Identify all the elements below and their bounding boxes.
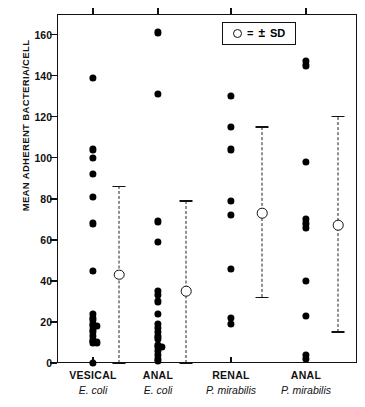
plot-area: 020406080100120140160 bbox=[57, 14, 357, 363]
legend: = ± SD bbox=[222, 22, 296, 45]
x-group-organism: P. mirabilis bbox=[206, 384, 256, 396]
mean-marker bbox=[333, 220, 344, 231]
x-tick-top bbox=[230, 8, 232, 15]
y-tick-label: 0 bbox=[12, 357, 52, 369]
y-tick-label: 40 bbox=[12, 275, 52, 287]
y-axis-title: MEAN ADHERENT BACTERIA/CELL bbox=[20, 6, 31, 246]
x-tick-top bbox=[157, 8, 159, 15]
figure: MEAN ADHERENT BACTERIA/CELL 020406080100… bbox=[0, 0, 365, 407]
data-point bbox=[154, 357, 161, 364]
error-bar-cap-upper bbox=[256, 126, 269, 128]
error-bar-cap-lower bbox=[256, 297, 269, 299]
y-tick-label: 20 bbox=[12, 316, 52, 328]
legend-equals: = bbox=[247, 27, 253, 39]
error-bar-cap-upper bbox=[180, 200, 193, 202]
y-tick-label: 100 bbox=[12, 152, 52, 164]
error-bar-cap-lower bbox=[332, 331, 345, 333]
error-bar-cap-upper bbox=[113, 186, 126, 188]
x-tick-top bbox=[305, 8, 307, 15]
y-tick-label: 60 bbox=[12, 234, 52, 246]
x-group-site: ANAL bbox=[281, 369, 331, 381]
y-tick-label: 80 bbox=[12, 193, 52, 205]
error-bar-cap-lower bbox=[180, 362, 193, 364]
x-group-label: RENALP. mirabilis bbox=[206, 369, 256, 396]
x-group-site: RENAL bbox=[206, 369, 256, 381]
y-tick-label: 160 bbox=[12, 29, 52, 41]
x-group-organism: P. mirabilis bbox=[281, 384, 331, 396]
x-group-site: ANAL bbox=[143, 369, 173, 381]
legend-label: SD bbox=[270, 27, 285, 39]
x-group-label: ANALP. mirabilis bbox=[281, 369, 331, 396]
plot-frame bbox=[57, 14, 357, 363]
error-bar-cap-upper bbox=[332, 116, 345, 118]
x-group-label: ANALE. coli bbox=[143, 369, 173, 396]
x-group-organism: E. coli bbox=[69, 384, 117, 396]
x-group-site: VESICAL bbox=[69, 369, 117, 381]
x-tick-bottom bbox=[230, 357, 232, 363]
error-bar-line bbox=[186, 201, 187, 363]
open-circle-icon bbox=[233, 29, 242, 38]
error-bar-cap-lower bbox=[113, 362, 126, 364]
x-group-label: VESICALE. coli bbox=[69, 369, 117, 396]
data-point bbox=[89, 359, 96, 366]
x-group-organism: E. coli bbox=[143, 384, 173, 396]
y-tick-label: 140 bbox=[12, 70, 52, 82]
mean-marker bbox=[181, 286, 192, 297]
mean-marker bbox=[257, 208, 268, 219]
mean-marker bbox=[114, 269, 125, 280]
y-tick-label: 120 bbox=[12, 111, 52, 123]
plus-minus-icon: ± bbox=[258, 27, 265, 39]
x-tick-top bbox=[92, 8, 94, 15]
